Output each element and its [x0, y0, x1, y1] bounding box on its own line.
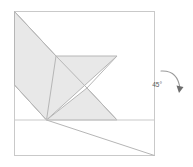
rotation-angle-label: 45° [152, 81, 162, 88]
geometry-figure: 45° [0, 0, 193, 167]
rotation-arrowhead-icon [177, 86, 184, 94]
figure-canvas: 45° [0, 0, 193, 167]
